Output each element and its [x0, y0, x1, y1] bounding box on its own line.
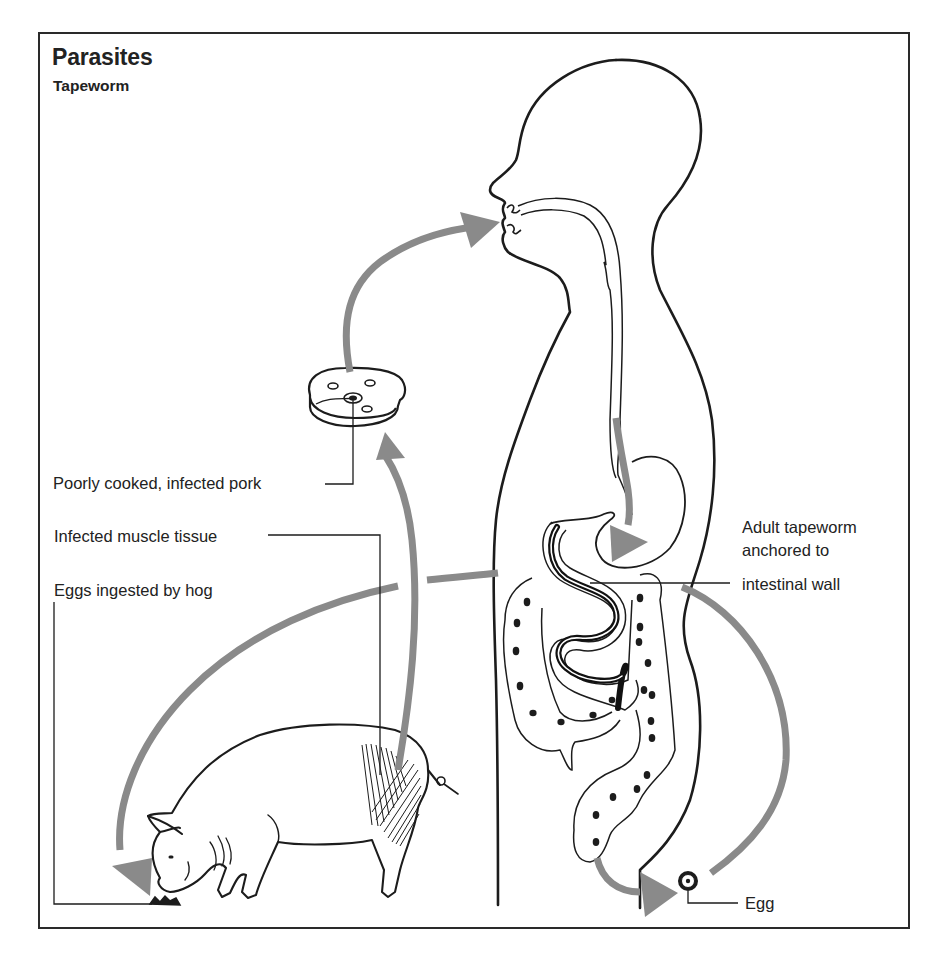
leader-muscle: [268, 535, 380, 775]
arrowheads: [112, 212, 678, 917]
mouth-detail: [507, 205, 521, 234]
leader-egg: [688, 891, 738, 903]
leader-eggs-hog: [54, 602, 152, 904]
esophagus: [518, 198, 632, 515]
lifecycle-arrows: [120, 228, 787, 892]
arrow-intestine-to-hog: [427, 573, 498, 580]
arrow-intestine-to-egg: [682, 587, 786, 873]
arrow-rectum-to-egg: [597, 858, 640, 892]
label-pork: Poorly cooked, infected pork: [53, 472, 261, 494]
label-adult-tapeworm-2: anchored to: [742, 539, 829, 561]
eggs-in-colon: [513, 594, 656, 846]
human-body-outline: [490, 60, 714, 908]
arrow-pig-to-pork: [385, 455, 415, 770]
label-adult-tapeworm-1: Adult tapeworm: [742, 516, 857, 538]
egg-icon: [678, 871, 698, 891]
arrowhead-hog: [112, 858, 152, 896]
label-eggs-ingested: Eggs ingested by hog: [54, 579, 213, 601]
label-adult-tapeworm-3: intestinal wall: [742, 573, 840, 595]
pork-slice-icon: [309, 368, 405, 426]
arrowhead-egg: [640, 872, 678, 917]
arrowhead-stomach: [610, 525, 648, 562]
label-egg: Egg: [745, 892, 774, 914]
label-muscle-tissue: Infected muscle tissue: [54, 525, 217, 547]
arrowhead-mouth: [460, 212, 500, 248]
arrowhead-pork: [376, 432, 405, 460]
ground-dirt: [150, 896, 180, 905]
arrow-pork-to-mouth: [346, 228, 466, 372]
